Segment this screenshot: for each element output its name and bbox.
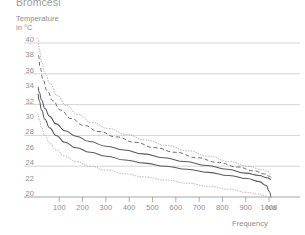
y-tick-label: 20	[18, 189, 34, 198]
y-tick-label: 24	[18, 158, 34, 167]
y-tick-label: 26	[18, 143, 34, 152]
x-axis-unit-label: h/a	[266, 203, 276, 212]
x-axis-group	[24, 197, 300, 202]
chart-plot-area	[0, 0, 305, 235]
curve-upper-bound-dotted	[38, 38, 271, 174]
y-tick-label: 28	[18, 127, 34, 136]
y-tick-label: 22	[18, 174, 34, 183]
y-tick-label: 30	[18, 112, 34, 121]
chart-page: Bromcesi Temperaturein °C 40383634323028…	[0, 0, 305, 235]
y-tick-label: 36	[18, 66, 34, 75]
curve-median-solid-upper	[38, 87, 271, 179]
y-tick-label: 38	[18, 50, 34, 59]
curves-group	[38, 38, 272, 197]
gridlines-group	[24, 43, 300, 166]
y-tick-label: 40	[18, 35, 34, 44]
curve-median-solid-lower	[38, 94, 271, 198]
y-tick-label: 34	[18, 81, 34, 90]
y-tick-label: 32	[18, 97, 34, 106]
x-axis-title: Frequency	[232, 219, 268, 228]
